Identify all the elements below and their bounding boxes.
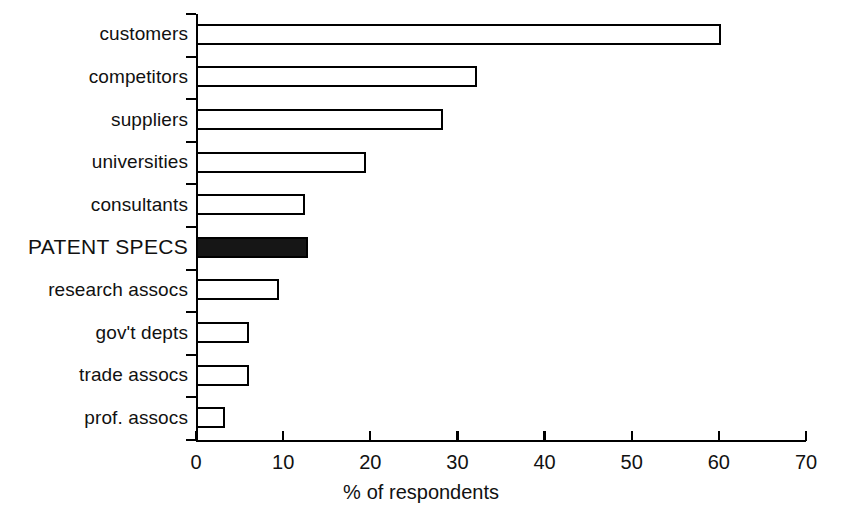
y-axis-tick: [186, 183, 196, 185]
category-label: consultants: [0, 194, 188, 216]
y-axis-tick: [186, 354, 196, 356]
category-label: customers: [0, 23, 188, 45]
category-label: universities: [0, 151, 188, 173]
x-axis-title: %of respondents: [0, 480, 842, 504]
category-label: prof. assocs: [0, 407, 188, 429]
bar: [196, 365, 249, 386]
x-axis-tick-label: 10: [272, 450, 294, 474]
bar: [196, 109, 443, 130]
y-axis-tick: [186, 141, 196, 143]
bar-chart: customerscompetitorssuppliersuniversitie…: [0, 0, 842, 529]
x-axis-tick-label: 60: [708, 450, 730, 474]
category-label: trade assocs: [0, 364, 188, 386]
y-axis-tick: [186, 396, 196, 398]
category-label-column: customerscompetitorssuppliersuniversitie…: [0, 0, 188, 529]
plot-area: 010203040506070: [196, 14, 806, 440]
x-axis-tick: [282, 431, 284, 441]
bar: [196, 237, 308, 258]
x-axis-tick: [456, 431, 458, 441]
y-axis-tick: [186, 439, 196, 441]
x-axis-tick-label: 0: [190, 450, 201, 474]
y-axis-tick: [186, 56, 196, 58]
category-label: suppliers: [0, 109, 188, 131]
bar: [196, 279, 279, 300]
category-label: research assocs: [0, 279, 188, 301]
y-axis-tick: [186, 226, 196, 228]
bar: [196, 24, 721, 45]
x-axis-tick-label: 50: [621, 450, 643, 474]
x-axis-title-text: of respondents: [367, 481, 499, 503]
x-axis-tick-label: 20: [359, 450, 381, 474]
bar: [196, 407, 225, 428]
category-label: competitors: [0, 66, 188, 88]
x-axis-tick-label: 40: [533, 450, 555, 474]
bar: [196, 194, 305, 215]
category-label: gov't depts: [0, 322, 188, 344]
y-axis-tick: [186, 311, 196, 313]
value-axis-line: [196, 440, 806, 442]
bar: [196, 66, 477, 87]
y-axis-tick: [186, 269, 196, 271]
x-axis-tick: [805, 431, 807, 441]
category-label: PATENT SPECS: [0, 235, 188, 259]
y-axis-tick: [186, 98, 196, 100]
x-axis-tick: [543, 431, 545, 441]
x-axis-tick: [369, 431, 371, 441]
x-axis-tick-label: 30: [446, 450, 468, 474]
x-axis-tick: [631, 431, 633, 441]
x-axis-title-percent: %: [343, 481, 361, 503]
y-axis-tick: [186, 13, 196, 15]
bar: [196, 322, 249, 343]
x-axis-tick: [718, 431, 720, 441]
x-axis-tick-label: 70: [795, 450, 817, 474]
bar: [196, 152, 366, 173]
